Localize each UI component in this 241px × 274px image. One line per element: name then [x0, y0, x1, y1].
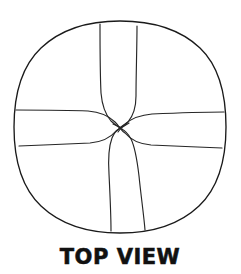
seam-bottom-left-icon	[109, 128, 120, 231]
seam-left-lower-icon	[19, 128, 120, 146]
caption-top-view: TOP VIEW	[60, 245, 180, 269]
seam-right-lower-icon	[120, 128, 222, 148]
seam-right-upper-icon	[120, 112, 224, 128]
seam-top-left-icon	[100, 24, 120, 128]
seam-left-upper-icon	[16, 110, 120, 128]
seam-top-right-icon	[120, 26, 137, 128]
top-view-drawing: TOP VIEW	[0, 0, 241, 274]
figure-root: TOP VIEW	[0, 0, 241, 274]
